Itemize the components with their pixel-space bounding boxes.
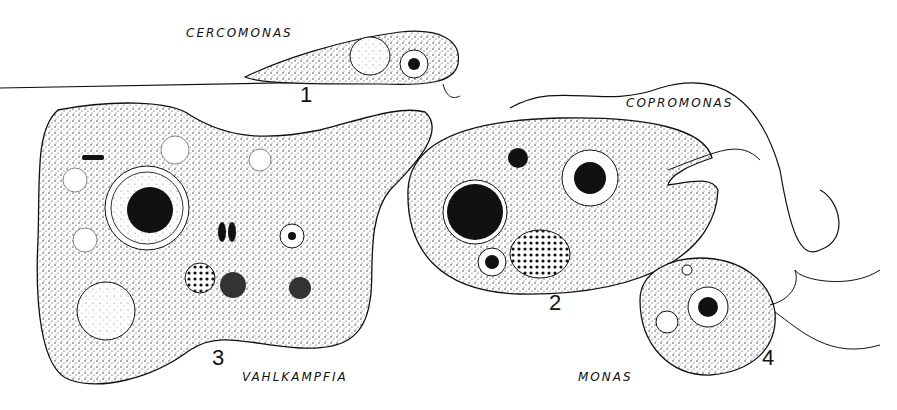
label-cercomonas: CERCOMONAS: [186, 26, 293, 40]
number-1: 1: [300, 82, 312, 108]
copromonas-organism: [408, 83, 839, 294]
number-2: 2: [549, 290, 561, 316]
number-3: 3: [212, 345, 224, 371]
cercomonas-organism: [0, 31, 460, 97]
label-vahlkampfia: VAHLKAMPFIA: [242, 370, 348, 384]
vahlkampfia-organism: [37, 103, 432, 384]
monas-organism: [640, 258, 880, 375]
number-4: 4: [762, 345, 774, 371]
label-monas: MONAS: [578, 370, 633, 384]
label-copromonas: COPROMONAS: [626, 96, 733, 110]
